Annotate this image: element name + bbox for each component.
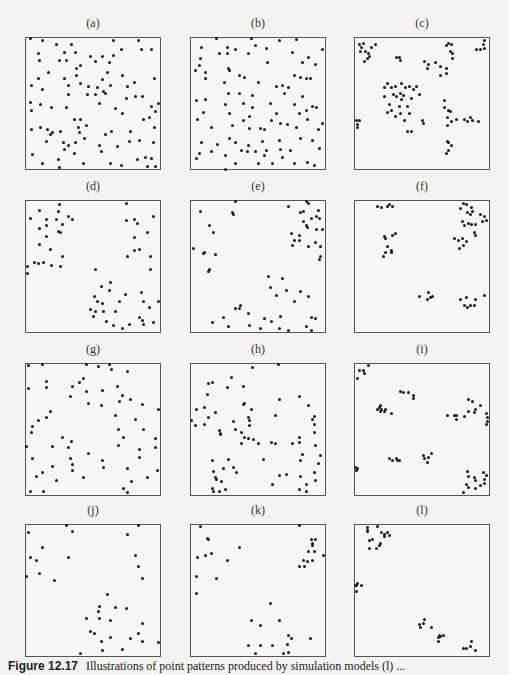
data-point: [317, 128, 320, 131]
data-point: [437, 636, 440, 639]
data-point: [142, 300, 145, 303]
data-point: [470, 223, 473, 226]
data-point: [79, 82, 82, 85]
data-point: [298, 565, 301, 568]
data-point: [282, 652, 285, 655]
data-point: [216, 143, 219, 146]
data-point: [51, 131, 54, 134]
data-point: [153, 126, 156, 129]
data-point: [77, 126, 80, 129]
plot-frame: [25, 200, 161, 333]
data-point: [293, 300, 296, 303]
data-point: [30, 84, 33, 87]
data-point: [63, 77, 66, 80]
data-point: [467, 475, 470, 478]
data-point: [465, 240, 468, 243]
data-point: [384, 237, 387, 240]
data-point: [41, 39, 44, 42]
data-point: [148, 306, 151, 309]
data-point: [278, 327, 281, 330]
data-point: [263, 128, 266, 131]
data-point: [287, 634, 290, 637]
data-point: [406, 130, 409, 133]
data-point: [210, 126, 213, 129]
plot-frame: [190, 524, 326, 657]
data-point: [120, 48, 123, 51]
data-point: [67, 144, 70, 147]
data-point: [278, 139, 281, 142]
data-point: [85, 617, 88, 620]
data-point: [465, 647, 468, 650]
data-point: [96, 86, 99, 89]
data-point: [114, 310, 117, 313]
data-point: [321, 122, 324, 125]
data-point: [146, 165, 149, 168]
data-point: [307, 245, 310, 248]
data-point: [287, 205, 290, 208]
data-point: [214, 253, 217, 256]
data-point: [110, 368, 113, 371]
plot-frame: [190, 37, 326, 170]
data-point: [98, 617, 101, 620]
data-point: [82, 476, 85, 479]
data-point: [269, 286, 272, 289]
data-point: [366, 57, 369, 60]
plot-frame: [354, 363, 490, 496]
data-point: [376, 205, 379, 208]
data-point: [93, 295, 96, 298]
scatter-panel-j: (j): [25, 503, 161, 657]
data-point: [370, 46, 373, 49]
data-point: [314, 479, 317, 482]
data-point: [394, 85, 397, 88]
data-point: [226, 46, 229, 49]
data-point: [74, 141, 77, 144]
data-point: [430, 626, 433, 629]
data-point: [240, 149, 243, 152]
data-point: [133, 236, 136, 239]
data-point: [231, 124, 234, 127]
data-point: [137, 632, 140, 635]
data-point: [430, 452, 433, 455]
data-point: [290, 637, 293, 640]
data-point: [315, 106, 318, 109]
data-point: [317, 462, 320, 465]
data-point: [101, 55, 104, 58]
data-point: [366, 530, 369, 533]
data-point: [109, 281, 112, 284]
data-point: [307, 295, 310, 298]
data-point: [356, 377, 359, 380]
data-point: [61, 223, 64, 226]
data-point: [390, 109, 393, 112]
data-point: [234, 307, 237, 310]
data-point: [302, 220, 305, 223]
data-point: [400, 98, 403, 101]
data-point: [224, 103, 227, 106]
data-point: [422, 122, 425, 125]
data-point: [242, 119, 245, 122]
data-point: [285, 473, 288, 476]
data-point: [277, 363, 280, 366]
data-point: [154, 446, 157, 449]
data-point: [97, 610, 100, 613]
data-point: [133, 249, 136, 252]
data-point: [483, 294, 486, 297]
data-point: [384, 251, 387, 254]
data-point: [238, 307, 241, 310]
data-point: [301, 453, 304, 456]
data-point: [469, 213, 472, 216]
data-point: [50, 106, 53, 109]
data-point: [271, 483, 274, 486]
data-point: [263, 154, 266, 157]
data-point: [254, 150, 257, 153]
data-point: [315, 228, 318, 231]
data-point: [285, 289, 288, 292]
data-point: [298, 395, 301, 398]
data-point: [455, 118, 458, 121]
data-point: [37, 262, 40, 265]
data-point: [85, 124, 88, 127]
data-point: [101, 389, 104, 392]
data-point: [25, 445, 28, 448]
data-point: [146, 476, 149, 479]
data-point: [426, 461, 429, 464]
data-point: [67, 556, 70, 559]
